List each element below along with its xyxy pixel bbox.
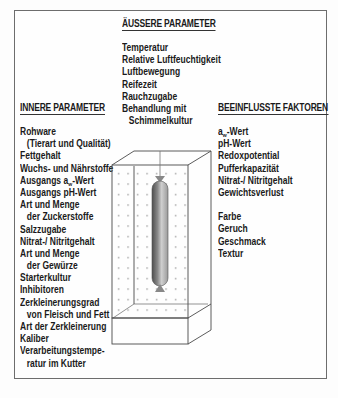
sausage-icon — [152, 181, 168, 286]
ripening-chamber-illustration — [0, 0, 338, 398]
